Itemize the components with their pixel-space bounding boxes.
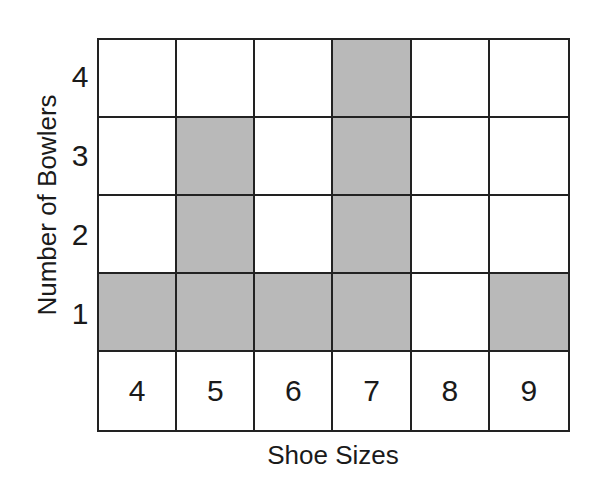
grid-cell [99, 118, 177, 196]
y-tick-1: 1 [68, 297, 92, 331]
grid-cell [412, 118, 490, 196]
y-tick-3: 3 [68, 139, 92, 173]
y-tick-4: 4 [68, 60, 92, 94]
x-tick-4: 4 [99, 352, 177, 430]
grid-cell [255, 196, 333, 274]
grid-cell [255, 40, 333, 118]
x-tick-5: 5 [177, 352, 255, 430]
grid-cell [177, 196, 255, 274]
grid-cell [255, 118, 333, 196]
grid-cell [412, 40, 490, 118]
grid-cell [333, 274, 411, 352]
grid-cell [490, 40, 568, 118]
grid-cell [333, 40, 411, 118]
grid-cell [177, 274, 255, 352]
grid-cell [99, 40, 177, 118]
x-tick-8: 8 [412, 352, 490, 430]
grid-cell [412, 196, 490, 274]
x-tick-6: 6 [255, 352, 333, 430]
grid-cell [333, 118, 411, 196]
grid-cell [490, 118, 568, 196]
grid-cell [333, 196, 411, 274]
y-axis-label: Number of Bowlers [32, 94, 63, 315]
grid-cell [490, 196, 568, 274]
x-tick-9: 9 [490, 352, 568, 430]
grid-cell [490, 274, 568, 352]
x-tick-7: 7 [333, 352, 411, 430]
grid-cell [99, 196, 177, 274]
grid-cell [99, 274, 177, 352]
bar-grid: 456789 [97, 38, 570, 432]
x-axis-label: Shoe Sizes [267, 440, 399, 471]
grid-cell [255, 274, 333, 352]
y-tick-2: 2 [68, 218, 92, 252]
grid-cell [412, 274, 490, 352]
grid-cell [177, 40, 255, 118]
grid-cell [177, 118, 255, 196]
